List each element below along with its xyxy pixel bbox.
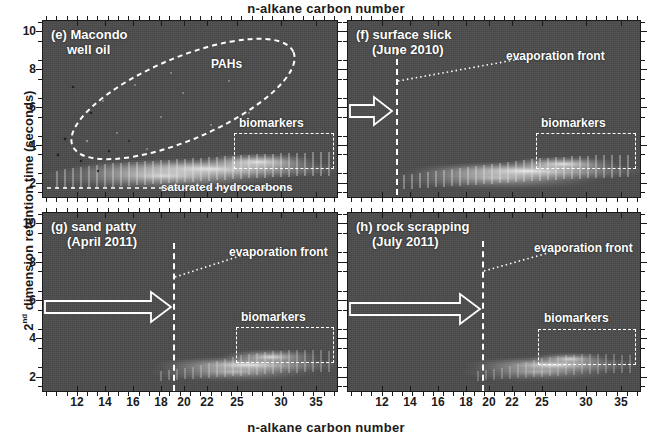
y-tick-minor xyxy=(641,310,645,311)
y-tick-minor xyxy=(343,136,347,137)
evaporation-front-leader-f xyxy=(398,59,520,81)
x-tick-minor xyxy=(423,16,424,20)
pahs-label: PAHs xyxy=(211,57,242,71)
x-tick-major xyxy=(438,386,439,392)
x-tick-minor xyxy=(67,392,68,396)
x-tick-minor xyxy=(169,16,170,20)
y-tick-minor xyxy=(338,348,342,349)
x-tick-major xyxy=(410,386,411,392)
x-tick-minor xyxy=(371,392,372,396)
x-tick-minor xyxy=(324,208,325,212)
x-tick-major xyxy=(237,386,238,392)
y-tick-minor xyxy=(338,60,342,61)
x-tick-minor xyxy=(586,208,587,212)
x-tick-minor xyxy=(514,16,515,20)
x-tick-minor xyxy=(159,392,160,396)
y-tick-minor xyxy=(641,60,645,61)
x-tick-major xyxy=(207,212,208,218)
saturated-band-lower xyxy=(456,362,620,382)
y-tick-major xyxy=(341,69,347,70)
panel-e-macondo-well-oil[interactable]: (e) Macondo well oil PAHs biomarkers sat… xyxy=(42,20,338,198)
x-tick-minor xyxy=(555,198,556,202)
y-tick-major xyxy=(341,31,347,32)
x-tick-minor xyxy=(606,198,607,202)
y-tick-major xyxy=(36,300,42,301)
x-tick-minor xyxy=(423,208,424,212)
x-tick-minor xyxy=(252,208,253,212)
x-tick-minor xyxy=(504,392,505,396)
x-tick-minor xyxy=(262,16,263,20)
x-tick-major xyxy=(489,212,490,218)
x-tick-major xyxy=(316,212,317,218)
y-tick-minor xyxy=(338,271,342,272)
y-tick-major xyxy=(641,262,647,263)
x-tick-major xyxy=(161,386,162,392)
x-tick-minor xyxy=(453,16,454,20)
x-tick-major xyxy=(133,212,134,218)
x-tick-minor xyxy=(545,392,546,396)
x-tick-major xyxy=(161,20,162,26)
biomarkers-label-e: biomarkers xyxy=(239,116,304,130)
x-tick-minor xyxy=(576,198,577,202)
y-tick-minor xyxy=(338,252,342,253)
evaporation-front-leader-h xyxy=(484,253,548,271)
y-tick-minor xyxy=(641,98,645,99)
y-tick-minor xyxy=(38,329,42,330)
x-tick-minor xyxy=(494,392,495,396)
x-tick-minor xyxy=(402,208,403,212)
x-tick-minor xyxy=(190,198,191,202)
y-tick-minor xyxy=(343,386,347,387)
y-tick-label: 2 xyxy=(12,176,36,190)
x-tick-minor xyxy=(77,392,78,396)
y-tick-minor xyxy=(38,22,42,23)
panel-f-surface-slick[interactable]: (f) surface slick (June 2010) evaporatio… xyxy=(347,20,641,198)
x-tick-minor xyxy=(180,392,181,396)
x-tick-minor xyxy=(211,198,212,202)
x-tick-minor xyxy=(303,392,304,396)
x-tick-minor xyxy=(351,208,352,212)
y-tick-minor xyxy=(38,41,42,42)
y-tick-major xyxy=(641,223,647,224)
x-tick-minor xyxy=(443,16,444,20)
y-tick-minor xyxy=(343,233,347,234)
panel-g-sand-patty[interactable]: (g) sand patty (April 2011) evaporation … xyxy=(42,212,338,392)
x-tick-major xyxy=(410,192,411,198)
x-tick-minor xyxy=(252,198,253,202)
x-tick-minor xyxy=(514,208,515,212)
y-tick-minor xyxy=(38,310,42,311)
x-tick-minor xyxy=(241,198,242,202)
x-tick-minor xyxy=(272,16,273,20)
x-tick-major xyxy=(316,192,317,198)
x-tick-minor xyxy=(272,392,273,396)
y-tick-minor xyxy=(343,79,347,80)
x-tick-label: 16 xyxy=(431,395,444,409)
x-tick-minor xyxy=(128,16,129,20)
biomarkers-label-h: biomarkers xyxy=(544,311,609,325)
y-tick-minor xyxy=(38,60,42,61)
y-tick-major xyxy=(341,223,347,224)
x-tick-major xyxy=(438,20,439,26)
y-tick-minor xyxy=(641,214,645,215)
x-tick-minor xyxy=(159,198,160,202)
x-tick-minor xyxy=(303,16,304,20)
x-tick-label: 35 xyxy=(309,395,322,409)
x-tick-minor xyxy=(433,198,434,202)
panel-h-rock-scrapping[interactable]: (h) rock scrapping (July 2011) evaporati… xyxy=(347,212,641,392)
x-tick-minor xyxy=(108,198,109,202)
x-tick-minor xyxy=(200,198,201,202)
x-tick-major xyxy=(105,386,106,392)
y-tick-minor xyxy=(38,348,42,349)
y-tick-label: 10 xyxy=(12,24,36,38)
x-tick-minor xyxy=(361,208,362,212)
x-tick-minor xyxy=(433,208,434,212)
x-tick-minor xyxy=(382,198,383,202)
y-tick-major xyxy=(36,377,42,378)
x-tick-minor xyxy=(606,392,607,396)
x-tick-minor xyxy=(118,198,119,202)
y-tick-major xyxy=(341,262,347,263)
y-tick-minor xyxy=(641,192,645,193)
x-tick-minor xyxy=(180,16,181,20)
x-tick-minor xyxy=(545,16,546,20)
x-tick-minor xyxy=(545,208,546,212)
y-tick-minor xyxy=(641,386,645,387)
